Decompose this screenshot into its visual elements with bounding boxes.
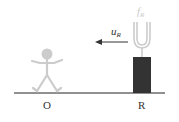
observer-label: O <box>43 99 51 111</box>
velocity-arrow-icon <box>95 39 128 45</box>
doppler-diagram <box>0 0 179 122</box>
source-box <box>133 57 151 93</box>
observer-figure-icon <box>32 49 62 92</box>
velocity-label: uR <box>111 25 121 39</box>
frequency-label: fR <box>137 5 144 19</box>
source-label: R <box>138 99 145 111</box>
tuning-fork-icon <box>134 22 150 57</box>
